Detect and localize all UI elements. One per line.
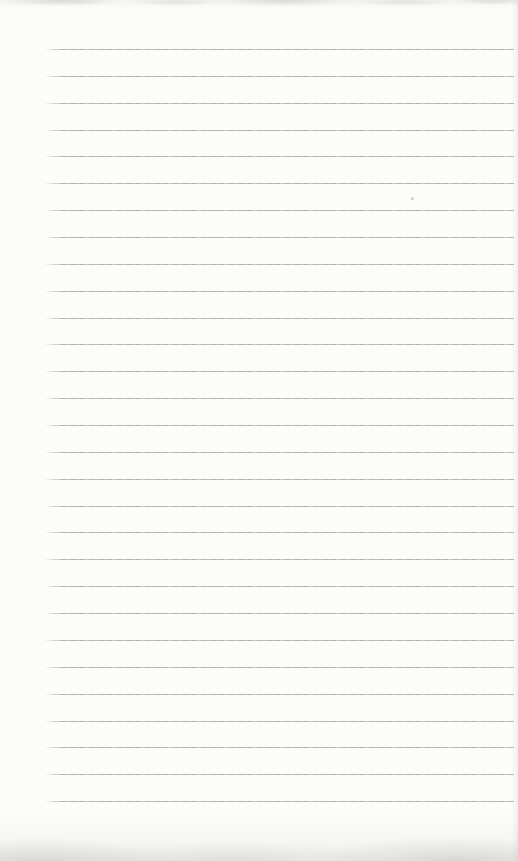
ruled-line — [45, 344, 514, 345]
ruled-line — [45, 640, 514, 641]
ruled-lines — [0, 0, 518, 861]
ruled-line — [45, 586, 514, 587]
paper-speck — [411, 197, 414, 200]
ruled-line — [45, 183, 514, 184]
ruled-line — [45, 210, 514, 211]
ruled-line — [45, 532, 514, 533]
ruled-line — [45, 76, 514, 77]
ruled-line — [45, 452, 514, 453]
ruled-line — [45, 425, 514, 426]
ruled-line — [45, 747, 514, 748]
ruled-line — [45, 801, 514, 802]
notebook-page — [0, 0, 518, 861]
ruled-line — [45, 103, 514, 104]
ruled-line — [45, 398, 514, 399]
ruled-line — [45, 264, 514, 265]
ruled-line — [45, 721, 514, 722]
ruled-line — [45, 667, 514, 668]
ruled-line — [45, 613, 514, 614]
ruled-line — [45, 49, 514, 50]
ruled-line — [45, 559, 514, 560]
ruled-line — [45, 506, 514, 507]
ruled-line — [45, 291, 514, 292]
ruled-line — [45, 318, 514, 319]
ruled-line — [45, 130, 514, 131]
ruled-line — [45, 694, 514, 695]
ruled-line — [45, 774, 514, 775]
ruled-line — [45, 479, 514, 480]
ruled-line — [45, 156, 514, 157]
ruled-line — [45, 371, 514, 372]
ruled-line — [45, 237, 514, 238]
